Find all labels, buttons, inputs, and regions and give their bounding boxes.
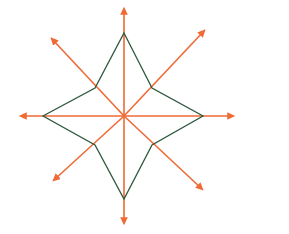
axis-ray-southwest [54, 116, 124, 180]
figure-stage: Banco de imagens/Arquivo da editora [0, 0, 289, 234]
axis-ray-northwest [52, 39, 124, 116]
axis-ray-southeast [124, 116, 202, 189]
compass-rose-figure [0, 0, 289, 234]
axis-rays-group [21, 9, 233, 223]
axis-ray-northeast [124, 31, 204, 116]
